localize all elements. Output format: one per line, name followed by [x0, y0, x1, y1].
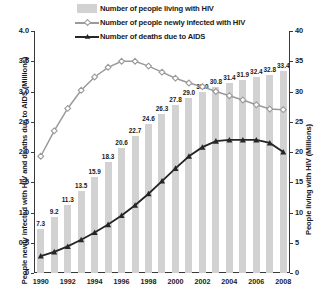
x-axis-tick-label: 1998 [141, 277, 157, 286]
y-axis-right-tick-label: 40 [295, 26, 303, 35]
legend-label: Number of people newly infected with HIV [100, 17, 245, 28]
x-axis-tick-label: 2006 [248, 277, 264, 286]
plot-area: 7.39.211.313.515.918.320.622.724.626.327… [34, 31, 290, 273]
x-axis-tick-label: 2002 [194, 277, 210, 286]
data-point-diamond-icon [200, 84, 206, 90]
y-axis-right-tick-label: 10 [295, 208, 303, 217]
legend-item-people-living-with-hiv: Number of people living with HIV [74, 2, 304, 15]
line-series-layer [34, 31, 290, 273]
y-axis-right-tick [290, 273, 293, 274]
y-axis-left-tick-label: 2.5 [19, 117, 29, 126]
x-axis-tick-label: 2000 [167, 277, 183, 286]
data-point-diamond-icon [267, 106, 273, 112]
y-axis-right-tick [290, 243, 293, 244]
y-axis-right-tick-label: 5 [295, 238, 299, 247]
data-point-diamond-icon [38, 153, 44, 159]
data-point-diamond-icon [159, 69, 165, 75]
y-axis-right-tick [290, 92, 293, 93]
line-path [41, 140, 284, 256]
y-axis-right-tick [290, 152, 293, 153]
data-point-diamond-icon [173, 75, 179, 81]
data-point-diamond-icon [240, 97, 246, 103]
y-axis-left-tick-label: 1.0 [19, 208, 29, 217]
legend-swatch-bar-icon [74, 3, 100, 14]
y-axis-right-tick [290, 61, 293, 62]
data-point-diamond-icon [186, 80, 192, 86]
data-point-diamond-icon [226, 93, 232, 99]
y-axis-right-title: People living with HIV (Millions) [304, 80, 313, 280]
y-axis-left-tick-label: 1.5 [19, 177, 29, 186]
data-point-diamond-icon [280, 107, 286, 113]
y-axis-right-tick-label: 0 [295, 268, 299, 277]
legend-item-newly-infected: Number of people newly infected with HIV [74, 16, 304, 29]
y-axis-left-tick-label: 3.0 [19, 87, 29, 96]
x-axis-tick-label: 2004 [221, 277, 237, 286]
legend-line-diamond-icon [74, 17, 100, 28]
y-axis-left-tick-label: 0.5 [19, 238, 29, 247]
y-axis-left-tick [31, 273, 34, 274]
y-axis-right-tick [290, 122, 293, 123]
y-axis-right-tick-label: 15 [295, 177, 303, 186]
y-axis-right-tick [290, 213, 293, 214]
y-axis-right-tick-label: 20 [295, 147, 303, 156]
data-point-diamond-icon [132, 58, 138, 64]
y-axis-left-tick-label: 0 [25, 268, 29, 277]
x-axis-tick-label: 2008 [275, 277, 291, 286]
data-point-diamond-icon [213, 89, 219, 95]
y-axis-left-tick-label: 3.5 [19, 56, 29, 65]
x-axis-ticks: 1990199219941996199820002002200420062008 [34, 277, 290, 289]
chart-figure: Number of people living with HIV Number … [0, 0, 327, 298]
y-axis-right-tick-label: 35 [295, 56, 303, 65]
legend-label: Number of people living with HIV [100, 3, 214, 14]
y-axis-left-tick-label: 2.0 [19, 147, 29, 156]
y-axis-left-tick-label: 4.0 [19, 26, 29, 35]
y-axis-right-tick-label: 30 [295, 87, 303, 96]
data-point-diamond-icon [253, 102, 259, 108]
y-axis-right-tick-label: 25 [295, 117, 303, 126]
x-axis-tick-label: 1992 [60, 277, 76, 286]
y-axis-right-tick [290, 182, 293, 183]
x-axis-tick-label: 1996 [114, 277, 130, 286]
data-point-diamond-icon [119, 58, 125, 64]
data-point-diamond-icon [146, 63, 152, 69]
x-axis-tick-label: 1994 [87, 277, 103, 286]
x-axis-tick-label: 1990 [33, 277, 49, 286]
y-axis-right-tick [290, 31, 293, 32]
